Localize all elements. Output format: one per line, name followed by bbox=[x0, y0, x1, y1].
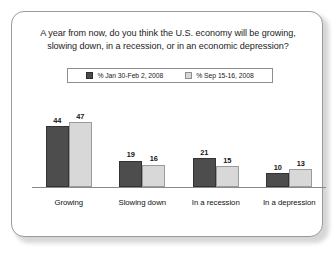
bar-pair: 19 16 bbox=[119, 151, 165, 187]
category-label: Growing bbox=[54, 198, 83, 207]
chart-title-line-1: A year from now, do you think the U.S. e… bbox=[26, 27, 310, 40]
category-label: Slowing down bbox=[118, 198, 166, 207]
bar-item: 44 bbox=[46, 117, 69, 187]
bar-item: 15 bbox=[216, 157, 239, 187]
plot-area: 44 47 Growing 19 1 bbox=[32, 108, 326, 210]
category-label: In a recession bbox=[192, 198, 240, 207]
bar-pair: 10 13 bbox=[266, 160, 312, 187]
bar-series-1 bbox=[266, 173, 289, 187]
bar-item: 16 bbox=[142, 155, 165, 187]
bar-item: 47 bbox=[69, 113, 92, 187]
legend-label-series-1: % Jan 30-Feb 2, 2008 bbox=[97, 72, 163, 79]
bar-series-1 bbox=[119, 161, 142, 187]
bar-group-growing: 44 47 Growing bbox=[32, 108, 106, 187]
bar-series-1 bbox=[193, 158, 216, 187]
chart-card: A year from now, do you think the U.S. e… bbox=[11, 11, 323, 237]
x-axis-line bbox=[32, 187, 326, 188]
bar-group-in-a-depression: 10 13 In a depression bbox=[253, 108, 327, 187]
bar-item: 13 bbox=[289, 160, 312, 187]
bar-group-in-a-recession: 21 15 In a recession bbox=[179, 108, 253, 187]
bar-value-label: 44 bbox=[53, 117, 61, 125]
legend-swatch-icon-series-2 bbox=[185, 72, 192, 79]
bar-item: 19 bbox=[119, 151, 142, 187]
category-label: In a depression bbox=[263, 198, 316, 207]
bar-value-label: 16 bbox=[150, 155, 158, 163]
bar-pair: 21 15 bbox=[193, 149, 239, 188]
bar-series-2 bbox=[289, 169, 312, 187]
bar-value-label: 21 bbox=[200, 149, 208, 157]
legend-label-series-2: % Sep 15-16, 2008 bbox=[196, 72, 253, 79]
bar-value-label: 19 bbox=[127, 151, 135, 159]
bar-item: 10 bbox=[266, 164, 289, 187]
bar-group-slowing-down: 19 16 Slowing down bbox=[106, 108, 180, 187]
bar-series-1 bbox=[46, 126, 69, 187]
bar-series-2 bbox=[142, 165, 165, 187]
legend-item-series-1: % Jan 30-Feb 2, 2008 bbox=[86, 72, 163, 79]
bar-groups: 44 47 Growing 19 1 bbox=[32, 108, 326, 187]
chart-title-line-2: slowing down, in a recession, or in an e… bbox=[26, 40, 310, 53]
bar-value-label: 15 bbox=[223, 157, 231, 165]
chart-legend: % Jan 30-Feb 2, 2008 % Sep 15-16, 2008 bbox=[67, 68, 273, 83]
bar-value-label: 47 bbox=[76, 113, 84, 121]
chart-title: A year from now, do you think the U.S. e… bbox=[26, 27, 310, 53]
bar-value-label: 10 bbox=[274, 164, 282, 172]
bar-value-label: 13 bbox=[297, 160, 305, 168]
bar-series-2 bbox=[216, 166, 239, 187]
legend-swatch-icon-series-1 bbox=[86, 72, 93, 79]
bar-item: 21 bbox=[193, 149, 216, 188]
legend-item-series-2: % Sep 15-16, 2008 bbox=[185, 72, 253, 79]
bar-series-2 bbox=[69, 122, 92, 187]
bar-pair: 44 47 bbox=[46, 113, 92, 187]
